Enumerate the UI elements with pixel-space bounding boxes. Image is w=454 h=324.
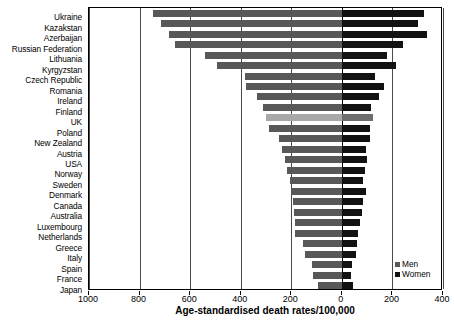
bar-men	[266, 114, 342, 121]
category-label: Greece	[0, 244, 82, 253]
bar-women	[342, 114, 374, 121]
bar-women	[342, 240, 357, 247]
bar-women	[342, 167, 365, 174]
bar-women	[342, 156, 367, 163]
bar-men	[246, 83, 342, 90]
category-axis-labels: UkraineKazakstanAzerbaijanRussian Federa…	[0, 6, 85, 290]
category-label: Denmark	[0, 191, 82, 200]
gridline	[392, 8, 393, 289]
x-tick-label: 1000	[68, 294, 108, 304]
x-tick-label: 800	[119, 294, 159, 304]
bar-women	[342, 83, 384, 90]
x-tick-label: 600	[169, 294, 209, 304]
category-label: Romania	[0, 87, 82, 96]
bar-men	[294, 209, 342, 216]
bar-men	[279, 135, 342, 142]
x-axis-title: Age-standardised death rates/100,000	[88, 305, 442, 316]
bar-men	[290, 177, 342, 184]
legend-swatch-icon	[395, 272, 400, 277]
bar-men	[153, 10, 341, 17]
bar-men	[303, 240, 342, 247]
bar-men	[282, 146, 341, 153]
category-label: New Zealand	[0, 139, 82, 148]
bar-men	[263, 104, 341, 111]
category-label: UK	[0, 118, 82, 127]
bar-women	[342, 188, 366, 195]
bar-women	[342, 177, 363, 184]
category-label: Luxembourg	[0, 223, 82, 232]
category-label: Ireland	[0, 97, 82, 106]
gridline	[443, 8, 444, 289]
category-label: Finland	[0, 108, 82, 117]
bar-men	[245, 73, 342, 80]
bar-women	[342, 62, 396, 69]
bar-women	[342, 146, 366, 153]
legend-swatch-icon	[395, 262, 400, 267]
x-tick-label: 200	[371, 294, 411, 304]
bar-women	[342, 251, 356, 258]
category-label: Kyrgyzstan	[0, 66, 82, 75]
x-tick-label: 400	[422, 294, 454, 304]
category-label: Russian Federation	[0, 45, 82, 54]
bar-men	[295, 230, 342, 237]
bar-women	[342, 209, 362, 216]
bar-women	[342, 20, 418, 27]
bar-women	[342, 31, 427, 38]
bar-men	[269, 125, 342, 132]
bar-men	[285, 156, 342, 163]
bar-men	[257, 93, 342, 100]
gridline	[241, 8, 242, 289]
category-label: Netherlands	[0, 233, 82, 242]
category-label: Austria	[0, 150, 82, 159]
bar-men	[305, 251, 342, 258]
bar-women	[342, 282, 353, 289]
bar-women	[342, 135, 370, 142]
category-label: Ukraine	[0, 13, 82, 22]
bar-women	[342, 198, 363, 205]
bar-women	[342, 73, 375, 80]
bar-men	[217, 62, 342, 69]
bar-women	[342, 93, 379, 100]
bar-men	[205, 52, 342, 59]
bar-women	[342, 230, 358, 237]
bar-women	[342, 125, 370, 132]
plot-area	[88, 7, 442, 290]
category-label: Sweden	[0, 181, 82, 190]
bar-women	[342, 52, 388, 59]
legend-label: Women	[402, 270, 430, 280]
chart-legend: MenWomen	[395, 260, 430, 279]
category-label: Azerbaijan	[0, 34, 82, 43]
bar-men	[313, 272, 342, 279]
bar-men	[293, 198, 342, 205]
category-label: Norway	[0, 170, 82, 179]
category-label: Poland	[0, 129, 82, 138]
category-label: Canada	[0, 202, 82, 211]
gridline	[190, 8, 191, 289]
bar-men	[161, 20, 342, 27]
bar-women	[342, 41, 403, 48]
category-label: France	[0, 275, 82, 284]
x-tick-label: 200	[270, 294, 310, 304]
category-label: USA	[0, 160, 82, 169]
bar-men	[175, 41, 342, 48]
bar-women	[342, 219, 360, 226]
bar-men	[287, 167, 341, 174]
bar-women	[342, 272, 351, 279]
gridline	[140, 8, 141, 289]
gridline	[89, 8, 90, 289]
bar-men	[169, 31, 342, 38]
category-label: Czech Republic	[0, 76, 82, 85]
category-label: Australia	[0, 212, 82, 221]
bar-men	[291, 188, 342, 195]
bar-women	[342, 10, 424, 17]
x-tick-label: 0	[321, 294, 361, 304]
x-tick-label: 400	[220, 294, 260, 304]
bar-men	[295, 219, 342, 226]
bar-women	[342, 104, 371, 111]
bar-men	[318, 282, 342, 289]
category-label: Lithuania	[0, 55, 82, 64]
category-label: Spain	[0, 265, 82, 274]
category-label: Italy	[0, 254, 82, 263]
bar-women	[342, 261, 352, 268]
